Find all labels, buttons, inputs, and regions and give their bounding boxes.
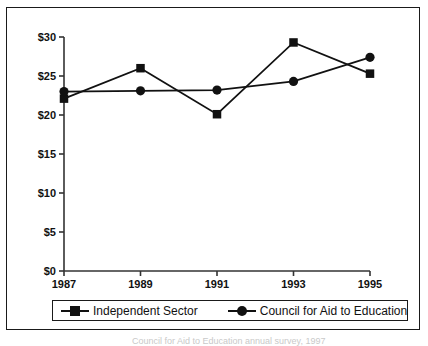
y-axis-tick-label: $25 (38, 70, 56, 82)
data-point-square-marker (289, 38, 298, 47)
series-line-0 (64, 42, 370, 114)
y-axis-tick-label: $0 (44, 265, 56, 277)
data-point-square-marker (213, 110, 222, 119)
line-chart-canvas: $0$5$10$15$20$25$3019871989199119931995 (0, 0, 428, 346)
data-point-circle-marker (212, 85, 221, 94)
data-point-square-marker (136, 64, 145, 72)
chart-legend: Independent Sector Council for Aid to Ed… (52, 300, 408, 321)
data-point-circle-marker (136, 86, 145, 95)
y-axis-tick-label: $20 (38, 109, 56, 121)
legend-item-council-for-aid-to-education[interactable]: Council for Aid to Education (228, 301, 407, 320)
data-point-circle-marker (289, 77, 298, 86)
circle-marker-icon (228, 304, 256, 318)
square-marker-icon (61, 304, 89, 318)
figure-caption: Council for Aid to Education annual surv… (132, 337, 428, 346)
x-axis-tick-label: 1991 (205, 278, 229, 290)
x-axis-tick-label: 1993 (281, 278, 305, 290)
y-axis-tick-label: $10 (38, 187, 56, 199)
y-axis-tick-label: $5 (44, 226, 56, 238)
x-axis-tick-label: 1987 (52, 278, 76, 290)
legend-label-0: Independent Sector (93, 304, 198, 318)
data-point-circle-marker (365, 53, 374, 62)
y-axis-tick-label: $15 (38, 148, 56, 160)
x-axis-tick-label: 1989 (128, 278, 152, 290)
data-point-square-marker (366, 69, 375, 78)
legend-item-independent-sector[interactable]: Independent Sector (61, 301, 198, 320)
plot-area: $0$5$10$15$20$25$3019871989199119931995 (0, 0, 428, 346)
x-axis-tick-label: 1995 (358, 278, 382, 290)
chart-figure: $0$5$10$15$20$25$3019871989199119931995 … (0, 0, 428, 346)
data-point-circle-marker (59, 87, 68, 96)
legend-label-1: Council for Aid to Education (260, 304, 407, 318)
y-axis-tick-label: $30 (38, 31, 56, 43)
